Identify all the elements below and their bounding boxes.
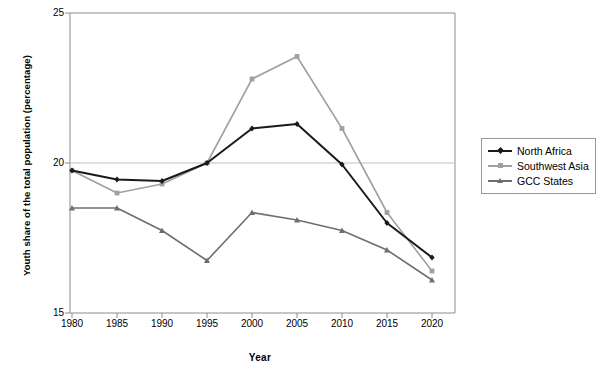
legend-marker-square-icon — [487, 160, 513, 172]
legend-item-southwest-asia[interactable]: Southwest Asia — [487, 158, 589, 173]
data-point — [295, 54, 300, 59]
legend-marker-diamond-icon — [487, 145, 513, 157]
data-point — [385, 210, 390, 215]
data-point — [430, 269, 435, 274]
data-point — [250, 77, 255, 82]
series-southwest-asia — [70, 54, 435, 273]
legend-label-southwest-asia: Southwest Asia — [517, 160, 589, 172]
legend-item-north-africa[interactable]: North Africa — [487, 143, 589, 158]
series-gcc-states — [69, 205, 435, 282]
legend-marker-triangle-icon — [487, 175, 513, 187]
x-axis-title: Year — [70, 352, 450, 363]
legend: North Africa Southwest Asia GCC States — [481, 138, 596, 194]
legend-label-gcc-states: GCC States — [517, 175, 573, 187]
legend-item-gcc-states[interactable]: GCC States — [487, 173, 589, 188]
data-point — [340, 126, 345, 131]
legend-label-north-africa: North Africa — [517, 145, 572, 157]
data-point — [114, 177, 119, 183]
data-point — [115, 191, 120, 196]
